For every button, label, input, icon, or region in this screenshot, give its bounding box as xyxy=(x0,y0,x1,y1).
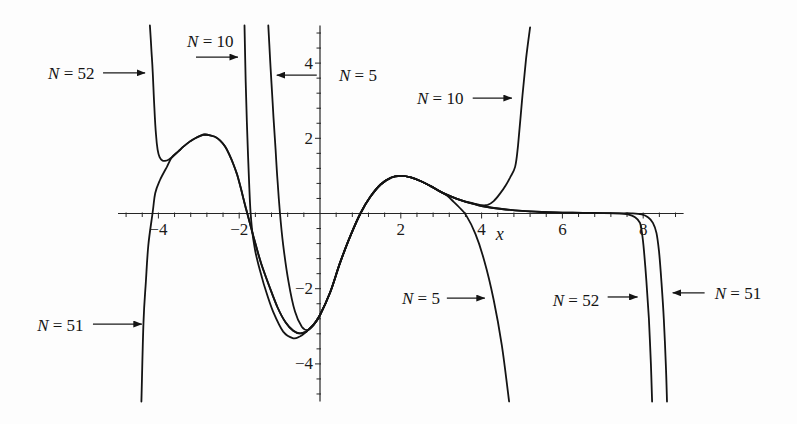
annotation-label: N = 51 xyxy=(715,284,761,301)
annotation-label: N = 51 xyxy=(37,316,83,333)
figure: −4−2246842−2−4 x N = 52N = 10N = 5N = 10… xyxy=(0,0,797,424)
y-tick-label: −4 xyxy=(295,354,314,373)
curve-n-51 xyxy=(141,135,667,402)
y-tick-label: 4 xyxy=(305,54,314,73)
annotation-label: N = 52 xyxy=(48,64,94,81)
x-tick-label: −4 xyxy=(149,220,168,239)
annotation-label: N = 5 xyxy=(339,67,377,84)
curve-n-10 xyxy=(245,26,531,339)
annotation-label: N = 10 xyxy=(417,90,463,107)
y-tick-label: 2 xyxy=(305,129,314,148)
annotation-arrows xyxy=(93,57,705,324)
annotation-label: N = 10 xyxy=(187,32,233,49)
y-tick-label: −2 xyxy=(295,279,313,298)
chart-canvas: −4−2246842−2−4 x xyxy=(0,0,797,424)
x-tick-label: 6 xyxy=(558,220,567,239)
x-tick-label: 2 xyxy=(397,220,406,239)
x-tick-label: −2 xyxy=(230,220,248,239)
annotation-label: N = 52 xyxy=(553,291,599,308)
x-axis-title: x xyxy=(495,224,504,244)
x-tick-label: 4 xyxy=(477,220,486,239)
annotation-label: N = 5 xyxy=(402,290,440,307)
